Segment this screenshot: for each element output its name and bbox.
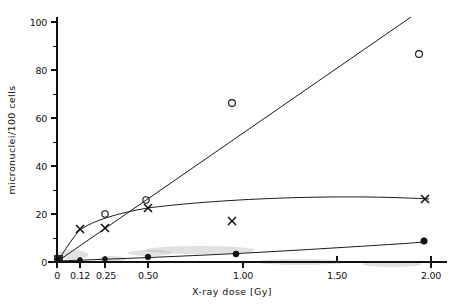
data-point-origin [56, 258, 61, 263]
x-tick-label-200: 2.00 [421, 270, 441, 281]
data-point-cross [76, 225, 84, 233]
y-tick-label-60: 60 [36, 113, 48, 124]
x-tick-label-0: 0 [54, 270, 60, 281]
x-axis-title: X-ray dose [Gy] [192, 286, 272, 297]
x-tick-label-012: 0.12 [70, 270, 90, 281]
data-point-open-circle [102, 211, 108, 217]
y-tick-label-100: 100 [30, 17, 47, 28]
data-point-filled-circle [145, 254, 151, 260]
data-point-cross [228, 217, 236, 225]
data-point-open-circle [229, 100, 236, 107]
y-tick-label-20: 20 [36, 209, 48, 220]
x-tick-label-050: 0.50 [138, 270, 158, 281]
y-axis: 100 80 60 40 20 0 micronuclei/100 cells [6, 17, 57, 268]
y-tick-label-40: 40 [36, 161, 48, 172]
data-point-filled-circle [421, 238, 427, 244]
x-tick-label-150: 1.50 [327, 270, 347, 281]
y-tick-label-0: 0 [41, 257, 47, 268]
series-open-circle [58, 17, 422, 261]
x-tick-label-100: 1.00 [233, 270, 253, 281]
y-tick-label-80: 80 [36, 65, 48, 76]
chart-figure: 100 80 60 40 20 0 micronuclei/100 cells … [0, 0, 451, 305]
data-point-filled-circle [103, 257, 108, 262]
scan-artifacts [56, 246, 422, 267]
scatter-plot: 100 80 60 40 20 0 micronuclei/100 cells … [0, 0, 451, 305]
data-point-cross [101, 224, 109, 232]
data-point-filled-circle [78, 258, 83, 263]
origin-cluster [54, 255, 63, 262]
data-point-open-circle [416, 51, 423, 58]
y-axis-title: micronuclei/100 cells [6, 85, 17, 194]
data-point-filled-circle [233, 251, 239, 257]
x-axis: 0 0.12 0.25 0.50 1.00 1.50 2.00 X-ray do… [48, 256, 447, 297]
x-tick-label-025: 0.25 [96, 270, 116, 281]
